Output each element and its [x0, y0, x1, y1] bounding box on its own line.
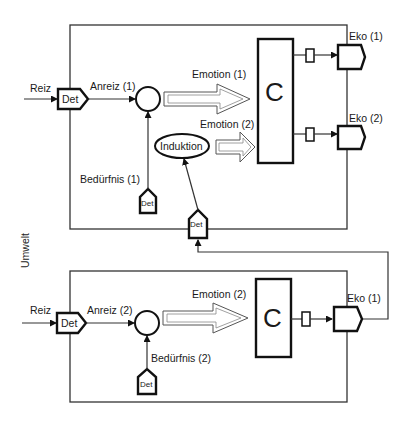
environment-label: Umwelt [19, 233, 31, 268]
input-detector-label: Det [62, 93, 78, 105]
emotion-2-arrow [216, 132, 255, 162]
anreiz-label-2: Anreiz (2) [87, 304, 133, 316]
need-label-2: Bedürfnis (2) [151, 352, 211, 364]
emotion-1-label: Emotion (1) [192, 68, 246, 80]
need-detector-label: Det [141, 199, 154, 208]
controller-label: C [265, 77, 284, 107]
emotion-2-label: Emotion (2) [200, 118, 254, 130]
reiz-label: Reiz [30, 82, 51, 94]
output-label-lower: Eko (1) [347, 292, 381, 304]
need-label: Bedürfnis (1) [80, 173, 140, 185]
emotion-system-diagram: Reiz Det Anreiz (1) Det Bedürfnis (1) Em… [0, 0, 409, 423]
induction-arrow [184, 159, 198, 210]
summation-node-2 [135, 311, 159, 335]
output-1-effector [338, 45, 365, 69]
emotion-label-lower: Emotion (2) [192, 288, 246, 300]
output-2-label: Eko (2) [349, 112, 383, 124]
input-detector-label-2: Det [61, 317, 77, 329]
induction-label: Induktion [160, 140, 203, 152]
output-1-label: Eko (1) [349, 30, 383, 42]
output-effector-lower [334, 307, 362, 331]
output-2-gate [306, 128, 314, 141]
anreiz-label: Anreiz (1) [90, 80, 136, 92]
output-gate-lower [302, 312, 310, 326]
lower-system: Reiz Det Anreiz (2) Det Bedürfnis (2) Em… [22, 271, 381, 402]
controller-label-2: C [263, 303, 282, 333]
upper-system: Reiz Det Anreiz (1) Det Bedürfnis (1) Em… [24, 25, 383, 238]
output-1-gate [306, 49, 314, 62]
reiz-label-2: Reiz [30, 304, 51, 316]
emotion-1-arrow [164, 84, 250, 114]
induction-detector-label: Det [190, 220, 203, 229]
output-2-effector [338, 126, 365, 149]
need-detector-label-2: Det [140, 380, 153, 389]
emotion-arrow-lower [163, 303, 248, 333]
feedback-connector [198, 240, 388, 319]
summation-node [136, 87, 160, 111]
